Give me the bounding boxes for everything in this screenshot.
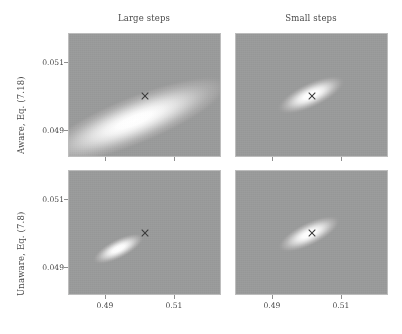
truth-marker-aware-large-steps (141, 92, 150, 101)
row-label-unaware: Unaware, Eq. (7.8) (16, 212, 26, 296)
truth-marker-aware-small-steps (308, 92, 317, 101)
xtick-label-right-051: 0.51 (333, 301, 350, 310)
xtick-mark-right-row1-a (272, 157, 273, 161)
xtick-label-right-049: 0.49 (264, 301, 281, 310)
panel-aware-large-steps[interactable] (68, 33, 221, 157)
figure-canvas: Large steps Small steps Aware, Eq. (7.18… (0, 0, 402, 334)
xtick-mark-left-b (174, 295, 175, 299)
xtick-label-left-051: 0.51 (166, 301, 183, 310)
panel-unaware-large-steps[interactable] (68, 170, 221, 295)
ytick-label-bottom-row2: 0.049 (34, 263, 64, 272)
ytick-label-top-row2: 0.051 (34, 195, 64, 204)
truth-marker-unaware-small-steps (308, 229, 317, 238)
xtick-mark-left-a (105, 295, 106, 299)
ytick-label-top-row1: 0.051 (34, 58, 64, 67)
xtick-mark-right-a (272, 295, 273, 299)
column-title-large-steps: Large steps (118, 13, 170, 23)
panel-unaware-small-steps[interactable] (235, 170, 388, 295)
panel-aware-small-steps[interactable] (235, 33, 388, 157)
xtick-mark-left-row1-a (105, 157, 106, 161)
xtick-mark-left-row1-b (174, 157, 175, 161)
xtick-mark-right-b (341, 295, 342, 299)
row-label-aware: Aware, Eq. (7.18) (16, 76, 26, 154)
xtick-mark-right-row1-b (341, 157, 342, 161)
truth-marker-unaware-large-steps (141, 229, 150, 238)
column-title-small-steps: Small steps (285, 13, 336, 23)
xtick-label-left-049: 0.49 (97, 301, 114, 310)
ytick-label-bottom-row1: 0.049 (34, 126, 64, 135)
